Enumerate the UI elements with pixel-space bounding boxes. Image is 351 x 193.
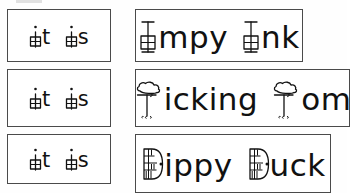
card-content: ippy <box>136 147 330 181</box>
letter-t: t <box>42 27 51 48</box>
phrase-impy-ink: mpy nk <box>138 19 299 53</box>
word-card-row2-right[interactable]: icking om <box>135 69 350 127</box>
card-content: icking om <box>136 81 349 115</box>
phrase-it-is: t s <box>29 86 89 110</box>
card-content: t s <box>8 24 110 48</box>
word-tom-rest: om <box>301 84 351 115</box>
letter-t: t <box>42 150 51 171</box>
door-letter-D-icon <box>140 147 164 181</box>
word-ticking-rest: icking <box>164 84 259 115</box>
card-content: mpy nk <box>136 19 302 53</box>
letter-s: s <box>78 150 89 171</box>
card-content: t s <box>8 86 110 110</box>
window-letter-i-icon <box>29 86 42 110</box>
door-letter-D-icon <box>246 147 270 181</box>
window-letter-I-icon <box>241 19 261 53</box>
word-dippy-rest: ippy <box>164 150 232 181</box>
card-content: t s <box>8 147 110 171</box>
word-ink-rest: nk <box>261 22 300 53</box>
window-letter-i-icon <box>29 24 42 48</box>
phrase-ticking-tom: icking om <box>134 81 351 115</box>
word-card-row1-right[interactable]: mpy nk <box>135 9 303 62</box>
phrase-it-is: t s <box>29 24 89 48</box>
phrase-dippy-duck: ippy <box>140 147 325 181</box>
word-card-row3-left[interactable]: t s <box>7 134 111 184</box>
window-letter-i-icon <box>65 24 78 48</box>
tree-letter-T-icon <box>271 81 301 115</box>
letter-s: s <box>78 27 89 48</box>
letter-t: t <box>42 89 51 110</box>
word-card-row1-left[interactable]: t s <box>7 9 111 62</box>
letter-s: s <box>78 89 89 110</box>
window-letter-I-icon <box>138 19 158 53</box>
word-card-row3-right[interactable]: ippy <box>135 134 331 193</box>
window-letter-i-icon <box>29 147 42 171</box>
window-letter-i-icon <box>65 147 78 171</box>
phrase-it-is: t s <box>29 147 89 171</box>
word-duck-rest: uck <box>270 150 326 181</box>
tree-letter-T-icon <box>134 81 164 115</box>
word-card-row2-left[interactable]: t s <box>7 69 111 127</box>
scan-artifact <box>16 0 42 3</box>
word-impy-rest: mpy <box>158 22 228 53</box>
window-letter-i-icon <box>65 86 78 110</box>
